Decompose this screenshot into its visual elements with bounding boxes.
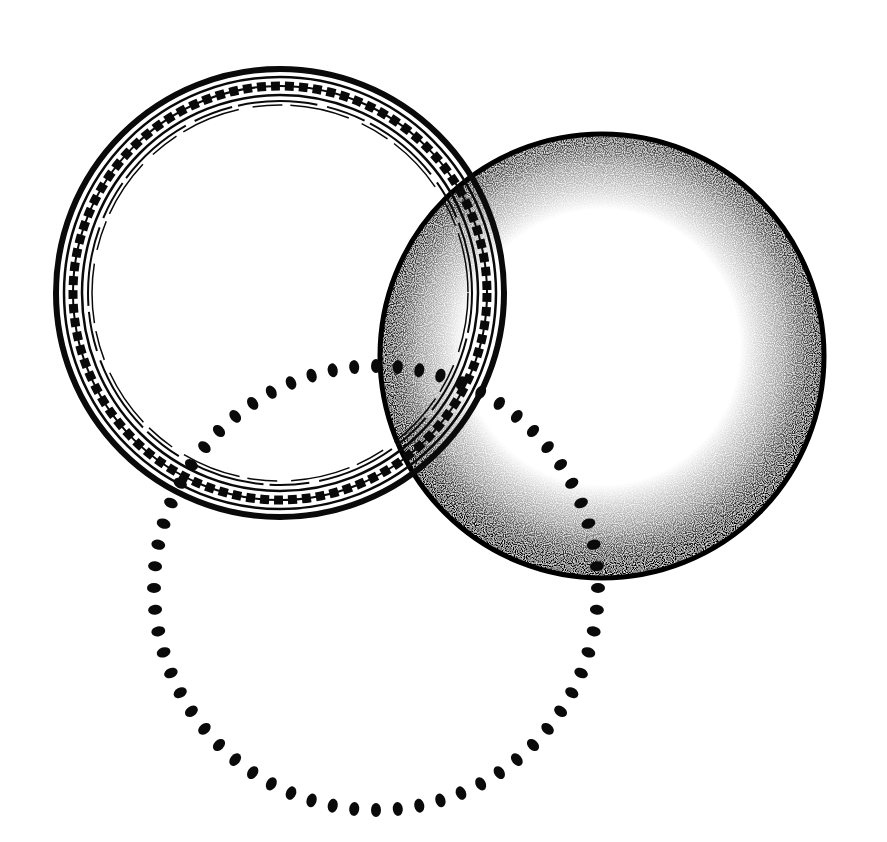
dot: [163, 666, 180, 681]
dot: [196, 439, 213, 456]
dot: [172, 685, 189, 700]
dot: [245, 395, 261, 412]
dot: [349, 360, 360, 375]
dot: [155, 517, 171, 531]
dot: [326, 362, 339, 378]
dot: [155, 646, 171, 660]
dot: [227, 408, 244, 425]
dot: [148, 604, 163, 615]
dot: [580, 646, 596, 660]
dot: [245, 764, 261, 781]
dot: [586, 625, 602, 638]
dot: [305, 367, 319, 383]
dot: [148, 561, 163, 572]
dot: [150, 538, 166, 551]
dot: [491, 764, 507, 781]
dot: [284, 375, 299, 392]
dot: [539, 720, 556, 737]
dot: [305, 792, 319, 808]
dot: [183, 703, 200, 719]
dot: [326, 798, 339, 814]
dot: [196, 720, 213, 737]
three-circles-illustration: [0, 0, 887, 842]
dot: [371, 803, 381, 817]
dot: [392, 801, 403, 816]
dot: [508, 751, 525, 768]
dot: [163, 496, 180, 511]
dot: [413, 798, 426, 814]
dot: [589, 604, 604, 615]
dot: [473, 775, 488, 792]
dot: [434, 792, 448, 808]
dot: [211, 737, 228, 754]
dot: [573, 666, 590, 681]
dot: [284, 785, 299, 802]
dot: [591, 583, 605, 593]
dot: [454, 785, 469, 802]
dot: [349, 801, 360, 816]
dot: [525, 737, 542, 754]
dot: [264, 775, 279, 792]
dotted-circle: [147, 359, 605, 817]
dot: [371, 359, 381, 373]
dot: [147, 583, 161, 593]
stippled-sphere: [380, 134, 824, 578]
dot: [227, 751, 244, 768]
dot: [563, 685, 580, 700]
dot: [150, 625, 166, 638]
dot: [211, 423, 228, 440]
dot: [264, 384, 279, 401]
dot: [552, 703, 569, 719]
